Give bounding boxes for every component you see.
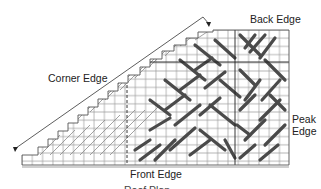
caption-partial: Roof Plan.... xyxy=(124,184,182,189)
peak-edge-label-line2: Edge xyxy=(292,125,317,137)
back-edge-label: Back Edge xyxy=(250,13,301,25)
arrowhead-top-icon xyxy=(206,22,211,27)
corner-edge-label: Corner Edge xyxy=(48,72,108,84)
roof-plan-diagram xyxy=(0,0,321,189)
peak-edge-label-line1: Peak xyxy=(292,113,316,125)
arrowhead-bottom-icon xyxy=(13,147,18,152)
front-edge-label: Front Edge xyxy=(130,168,182,180)
